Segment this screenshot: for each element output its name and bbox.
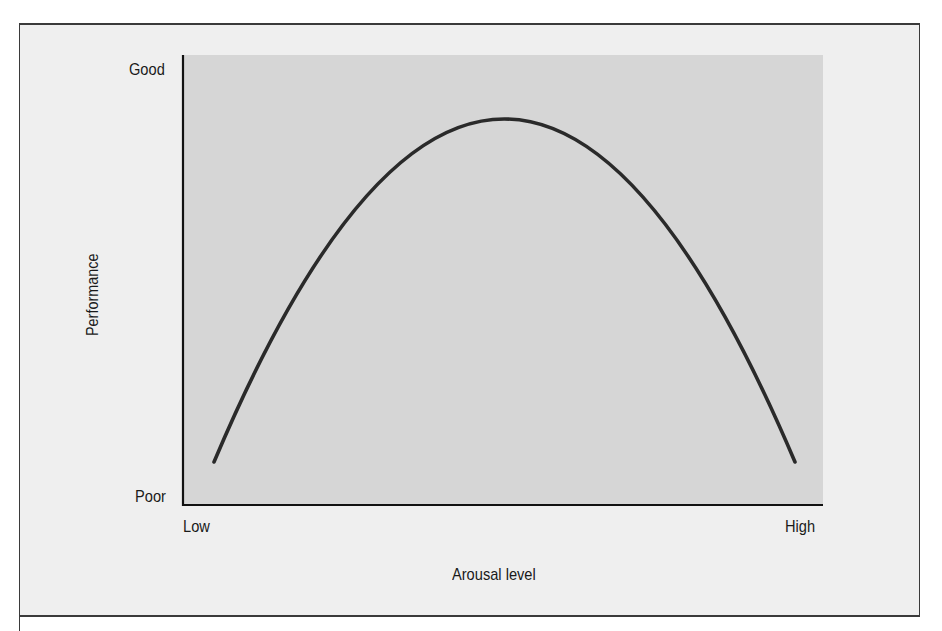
plot-area	[184, 55, 823, 505]
x-axis-title: Arousal level	[452, 566, 536, 583]
chart	[0, 0, 942, 631]
x-tick-low: Low	[183, 518, 210, 535]
y-tick-good: Good	[129, 61, 165, 78]
y-axis-title: Performance	[85, 254, 101, 336]
y-tick-poor: Poor	[135, 488, 166, 505]
x-tick-high: High	[785, 518, 815, 535]
